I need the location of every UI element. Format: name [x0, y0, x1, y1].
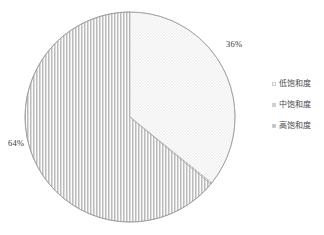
data-label-36-percent: 36% — [226, 39, 242, 49]
legend-label-low-saturation: 低饱和度 — [279, 78, 311, 89]
legend-swatch-mid-icon — [272, 103, 276, 107]
legend-label-mid-saturation: 中饱和度 — [279, 99, 311, 110]
legend-item-low-saturation[interactable]: 低饱和度 — [272, 78, 324, 89]
legend-swatch-low-icon — [272, 82, 276, 86]
pie-chart-container: 36% 64% 低饱和度 中饱和度 高饱和度 — [0, 0, 324, 235]
legend-label-high-saturation: 高饱和度 — [279, 120, 311, 131]
legend-item-mid-saturation[interactable]: 中饱和度 — [272, 99, 324, 110]
data-label-64-percent: 64% — [8, 138, 24, 148]
chart-legend: 低饱和度 中饱和度 高饱和度 — [272, 78, 324, 141]
legend-swatch-high-icon — [272, 124, 276, 128]
legend-item-high-saturation[interactable]: 高饱和度 — [272, 120, 324, 131]
